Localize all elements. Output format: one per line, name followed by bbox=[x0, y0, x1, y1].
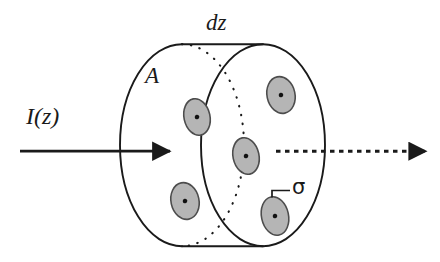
cross-section-label: σ bbox=[292, 177, 305, 198]
cylinder-slab-diagram bbox=[0, 0, 440, 262]
area-label: A bbox=[145, 64, 159, 87]
particle bbox=[167, 180, 202, 222]
particle bbox=[263, 74, 298, 116]
figure-canvas: dz A I(z) σ bbox=[0, 0, 440, 262]
particle-group bbox=[167, 74, 298, 238]
particle bbox=[180, 96, 213, 138]
particle bbox=[229, 135, 262, 177]
intensity-label: I(z) bbox=[26, 104, 59, 128]
particle-labelled-sigma bbox=[258, 194, 293, 238]
thickness-label: dz bbox=[206, 11, 226, 34]
